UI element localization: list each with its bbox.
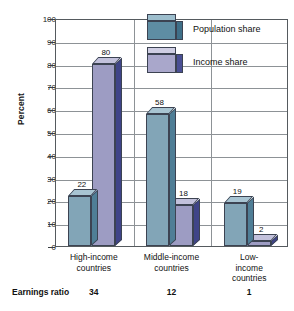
y-axis-tick-mark <box>48 156 55 157</box>
y-axis-tick-mark <box>48 224 55 225</box>
legend-label-income-share: Income share <box>193 57 248 67</box>
legend-swatch-income-share <box>147 54 176 73</box>
legend-swatch-front-face <box>147 54 176 73</box>
bar-side-face <box>115 57 122 246</box>
x-axis-label-line: countries <box>70 263 118 274</box>
y-axis-tick-mark <box>48 65 55 66</box>
bar-value-label: 18 <box>179 189 188 198</box>
legend-swatch-top-face <box>147 47 176 54</box>
bar-value-label: 58 <box>155 98 164 107</box>
earnings-ratio-value-3: 1 <box>247 287 252 297</box>
bar-population-share <box>224 203 247 246</box>
x-axis-label-line: countries <box>227 273 272 284</box>
x-axis-label-line: countries <box>144 263 199 274</box>
bar-front-face <box>224 203 247 246</box>
bar-value-label: 19 <box>233 187 242 196</box>
x-axis-label-line: High-income <box>70 252 118 263</box>
bar-population-share <box>146 114 169 246</box>
x-axis-label-2: Middle-incomecountries <box>144 252 199 273</box>
y-axis-tick-mark <box>48 133 55 134</box>
y-axis-tick-mark <box>48 42 55 43</box>
x-axis-label-1: High-incomecountries <box>70 252 118 273</box>
legend-swatch-front-face <box>147 21 176 40</box>
bar-side-face <box>91 190 98 246</box>
bar-value-label: 22 <box>77 180 86 189</box>
gridline <box>56 88 287 89</box>
y-axis-tick-mark <box>48 179 55 180</box>
chart-figure: Percent 1009080706050403020100 228058181… <box>0 0 294 311</box>
legend-label-population-share: Population share <box>193 24 261 34</box>
bar-side-face <box>193 199 200 246</box>
y-axis-tick-mark <box>48 19 55 20</box>
x-axis-label-line: Middle-income <box>144 252 199 263</box>
earnings-ratio-value-1: 34 <box>89 287 98 297</box>
chart-legend: Population share Income share <box>143 14 285 80</box>
legend-item-population-share: Population share <box>143 14 285 47</box>
earnings-ratio-label: Earnings ratio <box>12 287 69 297</box>
bar-value-label: 80 <box>101 48 110 57</box>
legend-swatch-top-face <box>147 14 176 21</box>
y-axis-tick-mark <box>48 201 55 202</box>
y-axis-tick-mark <box>48 110 55 111</box>
category-separator <box>134 20 135 246</box>
x-axis-label-line: Low-income <box>227 252 272 273</box>
bar-population-share <box>68 196 91 246</box>
y-axis-tick-mark <box>48 247 55 248</box>
bar-side-face <box>169 107 176 246</box>
bar-front-face <box>68 196 91 246</box>
legend-swatch-population-share <box>147 21 176 40</box>
earnings-ratio-value-2: 12 <box>167 287 176 297</box>
bar-front-face <box>146 114 169 246</box>
x-axis-label-3: Low-incomecountries <box>227 252 272 284</box>
y-axis-title: Percent <box>16 79 26 139</box>
legend-swatch-side-face <box>176 54 183 73</box>
y-axis-tick-mark <box>48 87 55 88</box>
bar-side-face <box>247 196 254 246</box>
legend-item-income-share: Income share <box>143 47 285 80</box>
legend-swatch-side-face <box>176 21 183 40</box>
